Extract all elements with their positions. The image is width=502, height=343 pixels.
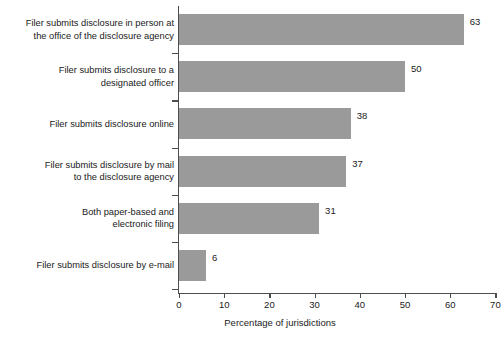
- bar[interactable]: [179, 14, 464, 45]
- bar[interactable]: [179, 203, 319, 234]
- category-label: Filer submits disclosure in person at th…: [4, 6, 174, 53]
- bar[interactable]: [179, 108, 351, 139]
- x-tick-label: 0: [176, 300, 181, 310]
- x-tick: [224, 293, 225, 298]
- bar-value-label: 63: [470, 17, 481, 27]
- category-label: Filer submits disclosure online: [4, 100, 174, 147]
- category-label: Filer submits disclosure by mail to the …: [4, 148, 174, 195]
- bar-value-label: 50: [411, 64, 422, 74]
- bar-value-label: 6: [212, 253, 217, 263]
- x-axis-title: Percentage of jurisdictions: [0, 317, 502, 328]
- x-tick: [360, 293, 361, 298]
- bar[interactable]: [179, 156, 346, 187]
- bar-value-label: 38: [357, 112, 368, 122]
- x-axis-title-text: Percentage of jurisdictions: [224, 317, 335, 328]
- x-tick: [179, 293, 180, 298]
- bar-row: 50: [179, 53, 502, 100]
- bar[interactable]: [179, 61, 405, 92]
- y-tick: [172, 100, 179, 101]
- bar-row: 38: [179, 100, 502, 147]
- category-label: Both paper-based and electronic filing: [4, 195, 174, 242]
- y-tick: [172, 242, 179, 243]
- x-tick-label: 30: [309, 300, 320, 310]
- x-tick-label: 50: [400, 300, 411, 310]
- bar-value-label: 37: [352, 159, 363, 169]
- y-tick: [172, 53, 179, 54]
- bar-value-label: 31: [325, 206, 336, 216]
- x-tick: [495, 293, 496, 298]
- y-tick: [172, 289, 179, 290]
- bar-row: 37: [179, 148, 502, 195]
- x-tick: [405, 293, 406, 298]
- y-tick: [172, 195, 179, 196]
- x-tick-label: 70: [490, 300, 501, 310]
- bar-row: 63: [179, 6, 502, 53]
- x-tick-label: 10: [219, 300, 230, 310]
- category-label: Filer submits disclosure to a designated…: [4, 53, 174, 100]
- x-tick: [450, 293, 451, 298]
- bar-row: 31: [179, 195, 502, 242]
- bar[interactable]: [179, 250, 206, 281]
- category-label: Filer submits disclosure by e-mail: [4, 242, 174, 289]
- x-tick: [315, 293, 316, 298]
- x-tick-label: 60: [445, 300, 456, 310]
- x-axis-line: [178, 293, 496, 294]
- x-tick-label: 40: [355, 300, 366, 310]
- bar-chart: 63503837316 Filer submits disclosure in …: [0, 0, 502, 343]
- x-tick-label: 20: [264, 300, 275, 310]
- bar-row: 6: [179, 242, 502, 289]
- y-tick: [172, 148, 179, 149]
- x-tick: [269, 293, 270, 298]
